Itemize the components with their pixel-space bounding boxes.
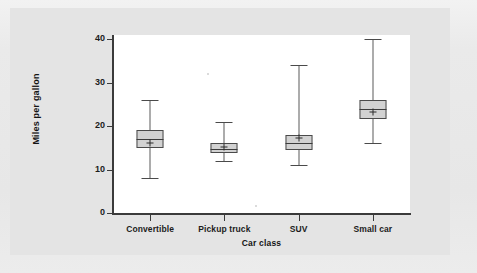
chart-page: 010203040 ConvertiblePickup truckSUVSmal…: [0, 0, 477, 273]
y-tick-mark: [107, 213, 113, 214]
x-tick-mark: [150, 215, 151, 221]
mean-marker: [369, 109, 376, 116]
y-tick-mark: [107, 83, 113, 84]
y-tick-label: 20: [65, 121, 105, 131]
lower-whisker: [224, 153, 225, 161]
scan-speck: [207, 73, 209, 75]
y-tick-label-text: 10: [71, 165, 105, 174]
x-tick-label-small-car: Small car: [354, 224, 393, 234]
y-tick-label: 10: [65, 165, 105, 175]
upper-whisker: [372, 39, 373, 100]
lower-whisker-cap: [216, 161, 233, 162]
upper-whisker-cap: [142, 100, 159, 101]
y-tick-label-text: 40: [71, 34, 105, 43]
lower-whisker-cap: [364, 143, 381, 144]
boxplot-pickup-truck: [211, 8, 238, 187]
y-tick-mark: [107, 126, 113, 127]
lower-whisker-cap: [142, 178, 159, 179]
y-tick-label: 40: [65, 34, 105, 44]
y-tick-label: 30: [65, 78, 105, 88]
mean-marker: [295, 135, 302, 142]
y-axis-line: [112, 35, 114, 215]
y-tick-label: 0: [65, 208, 105, 218]
lower-whisker: [372, 119, 373, 143]
upper-whisker: [150, 100, 151, 130]
mean-marker: [147, 139, 154, 146]
upper-whisker-cap: [216, 122, 233, 123]
y-tick-label-text: 30: [71, 78, 105, 87]
mean-marker: [221, 143, 228, 150]
lower-whisker: [150, 148, 151, 178]
x-tick-mark: [224, 215, 225, 221]
upper-whisker-cap: [290, 65, 307, 66]
x-tick-mark: [299, 215, 300, 221]
x-axis-label: Car class: [113, 238, 410, 248]
y-axis-label: Miles per gallon: [31, 59, 41, 159]
x-tick-label-pickup-truck: Pickup truck: [198, 224, 250, 234]
x-axis-line: [112, 213, 411, 215]
median-line: [285, 143, 312, 144]
lower-whisker-cap: [290, 165, 307, 166]
scan-speck: [255, 205, 257, 207]
boxplot-small-car: [359, 8, 386, 187]
y-tick-label-text: 20: [71, 121, 105, 130]
chart-panel: 010203040 ConvertiblePickup truckSUVSmal…: [10, 8, 450, 255]
upper-whisker: [224, 122, 225, 144]
x-tick-label-suv: SUV: [290, 224, 308, 234]
boxplot-convertible: [137, 8, 164, 187]
y-tick-mark: [107, 39, 113, 40]
x-tick-mark: [373, 215, 374, 221]
y-tick-mark: [107, 170, 113, 171]
x-tick-label-convertible: Convertible: [126, 224, 174, 234]
y-tick-label-text: 0: [71, 208, 105, 217]
upper-whisker: [298, 65, 299, 135]
lower-whisker: [298, 150, 299, 165]
boxplot-suv: [285, 8, 312, 187]
upper-whisker-cap: [364, 39, 381, 40]
